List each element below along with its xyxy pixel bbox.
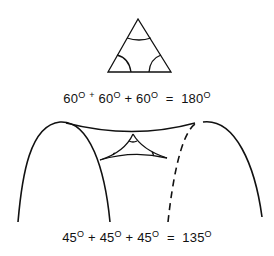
angle-value: 60 bbox=[63, 91, 78, 106]
angle-arc-left bbox=[117, 55, 131, 72]
flat-triangle bbox=[108, 19, 171, 72]
degree-symbol: O bbox=[151, 90, 158, 100]
angle-value: 45 bbox=[137, 230, 152, 245]
sum-value: 135 bbox=[182, 230, 204, 245]
left-arch bbox=[18, 122, 110, 222]
equals-sign: = bbox=[167, 230, 175, 245]
degree-symbol: O bbox=[115, 229, 122, 239]
angle-value: 45 bbox=[100, 230, 115, 245]
plus-sign: + bbox=[89, 90, 94, 100]
equals-sign: = bbox=[166, 91, 174, 106]
right-arch-dashed bbox=[168, 124, 195, 222]
flat-equation: 60O + 60O + 60O = 180O bbox=[0, 90, 274, 106]
sum-value: 180 bbox=[181, 91, 203, 106]
saddle-surface bbox=[18, 122, 262, 222]
degree-symbol: O bbox=[77, 229, 84, 239]
angle-value: 60 bbox=[136, 91, 151, 106]
right-arch-solid bbox=[203, 122, 262, 217]
saddle-angle-left bbox=[113, 153, 114, 155]
degree-symbol: O bbox=[152, 229, 159, 239]
degree-symbol: O bbox=[203, 90, 210, 100]
saddle-side-bottom bbox=[100, 154, 167, 160]
plus-sign: + bbox=[124, 91, 132, 106]
angle-value: 60 bbox=[99, 91, 114, 106]
diagram-canvas bbox=[0, 0, 274, 256]
degree-symbol: O bbox=[78, 90, 85, 100]
saddle-triangle bbox=[100, 134, 167, 160]
saddle-equation: 45O + 45O + 45O = 135O bbox=[0, 229, 274, 245]
angle-arc-top bbox=[127, 38, 151, 40]
degree-symbol: O bbox=[205, 229, 212, 239]
saddle-angle-top bbox=[129, 141, 137, 142]
plus-sign: + bbox=[88, 230, 96, 245]
plus-sign: + bbox=[126, 230, 134, 245]
angle-value: 45 bbox=[62, 230, 77, 245]
flat-triangle-outline bbox=[108, 19, 171, 72]
saddle-edge bbox=[66, 123, 195, 132]
degree-symbol: O bbox=[113, 90, 120, 100]
angle-arc-right bbox=[149, 55, 161, 72]
